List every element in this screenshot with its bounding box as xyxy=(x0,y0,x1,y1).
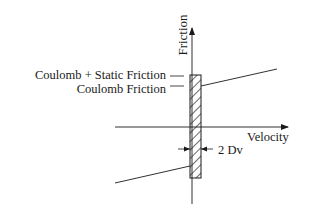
negative-friction-line xyxy=(115,166,190,183)
static-friction-band xyxy=(190,75,201,178)
friction-diagram: Friction Velocity Coulomb + Static Frict… xyxy=(0,0,313,211)
band-width-label: 2 Dv xyxy=(218,143,243,157)
velocity-axis-label: Velocity xyxy=(247,130,289,144)
positive-friction-line xyxy=(201,69,277,86)
coulomb-static-label: Coulomb + Static Friction xyxy=(35,68,167,82)
coulomb-label: Coulomb Friction xyxy=(77,82,167,96)
friction-axis-label: Friction xyxy=(175,14,190,56)
